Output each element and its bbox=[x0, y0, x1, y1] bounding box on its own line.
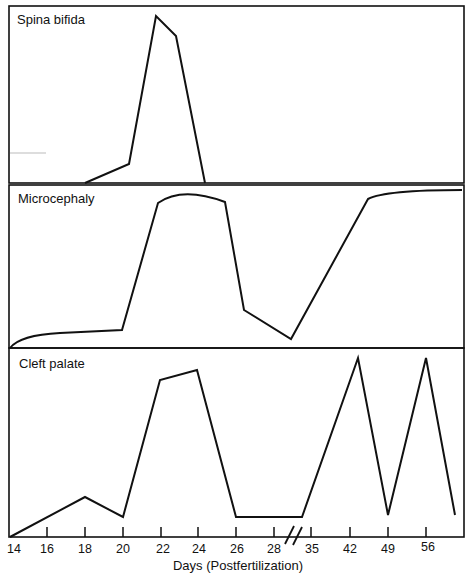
panel-label-cleft-palate: Cleft palate bbox=[19, 356, 85, 371]
x-axis-title: Days (Postfertilization) bbox=[173, 558, 303, 573]
x-tick-label: 20 bbox=[116, 542, 130, 556]
series-microcephaly bbox=[10, 190, 462, 348]
panel-frame-spina-bifida bbox=[9, 6, 464, 183]
panel-frame-cleft-palate bbox=[9, 348, 464, 537]
x-tick-label: 35 bbox=[305, 542, 319, 556]
x-tick-label: 18 bbox=[78, 542, 92, 556]
x-tick-label: 26 bbox=[230, 542, 244, 556]
x-tick-label: 42 bbox=[343, 542, 357, 556]
axis-break-icon bbox=[285, 526, 302, 545]
panel-label-microcephaly: Microcephaly bbox=[18, 191, 95, 206]
x-tick-label: 49 bbox=[381, 542, 395, 556]
x-tick-label: 22 bbox=[156, 542, 170, 556]
panel-label-spina-bifida: Spina bifida bbox=[17, 12, 85, 27]
x-tick-label: 16 bbox=[40, 542, 54, 556]
series-spina-bifida bbox=[85, 16, 205, 183]
x-tick-label: 14 bbox=[7, 542, 21, 556]
chart-canvas bbox=[0, 0, 472, 575]
x-ticks bbox=[47, 527, 426, 537]
x-tick-label: 24 bbox=[192, 542, 206, 556]
x-tick-label: 28 bbox=[267, 542, 281, 556]
x-tick-label: 56 bbox=[421, 540, 435, 554]
series-cleft-palate bbox=[10, 358, 455, 537]
